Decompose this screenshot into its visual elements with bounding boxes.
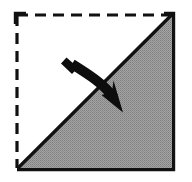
fold-diagram-figure: Square sheet folded along the diagonal; … [0,0,192,182]
fold-diagram-canvas [0,0,192,182]
